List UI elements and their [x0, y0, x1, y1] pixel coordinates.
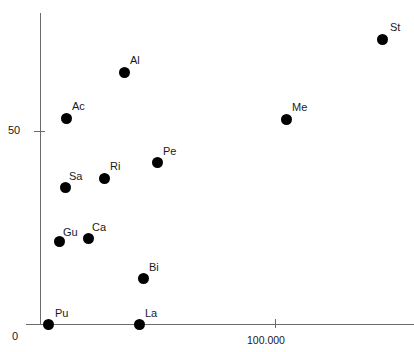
data-point-label: Sa: [69, 171, 82, 182]
data-point-label: Pe: [163, 146, 176, 157]
data-point-label: Pu: [55, 308, 68, 319]
data-point-label: La: [145, 308, 157, 319]
data-point-label: Me: [292, 102, 307, 113]
data-point-label: Bi: [149, 262, 159, 273]
y-axis-tick-label-50: 50: [8, 125, 20, 136]
data-point[interactable]: [60, 182, 71, 193]
x-axis-line: [26, 324, 414, 325]
scatter-plot: 50 0 100.000 StAlAcMePeRiSaCaGuBiLaPu: [0, 0, 414, 352]
data-point-label: Ca: [92, 222, 106, 233]
x-axis-tick-label-100000: 100.000: [247, 335, 285, 346]
data-point[interactable]: [61, 113, 72, 124]
data-point[interactable]: [377, 34, 388, 45]
data-point[interactable]: [134, 319, 145, 330]
data-point-label: Gu: [63, 227, 78, 238]
y-axis-tick-50: [34, 131, 45, 132]
data-point[interactable]: [43, 319, 54, 330]
data-point[interactable]: [99, 173, 110, 184]
data-point[interactable]: [119, 67, 130, 78]
data-point-label: Ac: [72, 101, 85, 112]
x-axis-tick-100000: [275, 319, 276, 328]
data-point[interactable]: [138, 273, 149, 284]
y-axis-tick-label-0: 0: [12, 331, 18, 342]
y-axis-line: [40, 13, 41, 325]
data-point-label: St: [390, 22, 400, 33]
data-point[interactable]: [281, 114, 292, 125]
data-point-label: Al: [130, 55, 140, 66]
data-point[interactable]: [152, 157, 163, 168]
data-point[interactable]: [83, 233, 94, 244]
data-point-label: Ri: [110, 161, 120, 172]
